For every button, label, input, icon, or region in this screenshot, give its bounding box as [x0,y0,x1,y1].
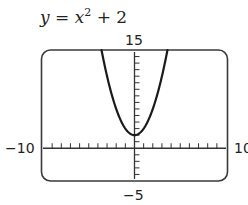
plot-area [0,0,248,205]
axes [43,52,226,179]
